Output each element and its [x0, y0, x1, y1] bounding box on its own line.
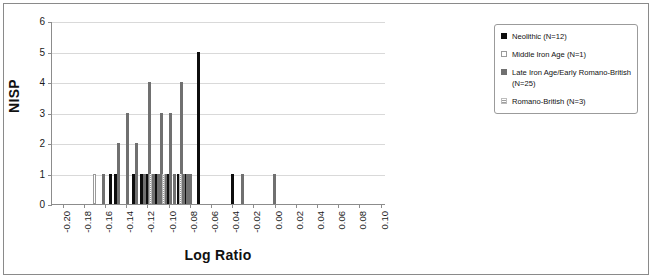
x-tick-label: 0.00 — [274, 211, 284, 230]
legend-item[interactable]: Neolithic (N=12) — [501, 31, 632, 42]
x-tick-label: -0.10 — [168, 211, 178, 233]
bar — [143, 174, 146, 205]
x-tick-label: 0.02 — [295, 211, 305, 230]
y-tick-label: 2 — [39, 139, 45, 149]
x-tick-mark — [232, 204, 233, 208]
y-tick-mark — [48, 144, 52, 145]
x-tick-label: 0.08 — [359, 211, 369, 230]
legend-item[interactable]: Romano-British (N=3) — [501, 96, 632, 107]
x-tick-mark — [381, 204, 382, 208]
x-tick-mark — [359, 204, 360, 208]
legend-item[interactable]: Late Iron Age/Early Romano-British (N=25… — [501, 67, 632, 89]
y-tick-label: 5 — [39, 48, 45, 58]
x-tick-mark — [105, 204, 106, 208]
bar — [117, 143, 120, 204]
x-tick-label: -0.06 — [210, 211, 220, 233]
x-tick-mark — [275, 204, 276, 208]
y-tick-mark — [48, 175, 52, 176]
bar — [241, 174, 244, 205]
x-tick-label: -0.08 — [189, 211, 199, 233]
bar — [182, 174, 185, 205]
legend-item[interactable]: Middle Iron Age (N=1) — [501, 49, 632, 60]
bar — [162, 174, 165, 205]
y-tick-mark — [48, 114, 52, 115]
x-tick-label: -0.20 — [62, 211, 72, 233]
chart-figure: NISP Log Ratio 0123456 -0.20-0.18-0.16-0… — [0, 0, 653, 279]
bar — [189, 174, 192, 205]
y-tick-mark — [48, 83, 52, 84]
x-tick-mark — [84, 204, 85, 208]
x-tick-mark — [211, 204, 212, 208]
y-tick-mark — [48, 53, 52, 54]
bar — [152, 174, 155, 205]
bar — [109, 174, 112, 205]
bar — [173, 174, 176, 205]
gridline — [52, 114, 385, 115]
legend-label: Neolithic (N=12) — [512, 31, 567, 42]
x-tick-label: -0.16 — [104, 211, 114, 233]
legend-swatch-romano — [501, 98, 507, 104]
legend-swatch-neolithic — [501, 33, 507, 39]
x-tick-mark — [126, 204, 127, 208]
y-tick-label: 4 — [39, 78, 45, 88]
x-tick-mark — [253, 204, 254, 208]
y-tick-label: 3 — [39, 109, 45, 119]
y-tick-mark — [48, 22, 52, 23]
bar — [231, 174, 234, 205]
bar — [273, 174, 276, 205]
x-tick-mark — [338, 204, 339, 208]
bar — [135, 143, 138, 204]
plot-area: 0123456 -0.20-0.18-0.16-0.14-0.12-0.10-0… — [51, 22, 385, 205]
x-tick-label: -0.18 — [83, 211, 93, 233]
bar — [197, 52, 200, 205]
x-tick-mark — [147, 204, 148, 208]
x-tick-label: 0.06 — [338, 211, 348, 230]
x-tick-label: 0.10 — [380, 211, 390, 230]
gridline — [52, 22, 385, 23]
bar — [126, 113, 129, 205]
bar — [179, 174, 182, 205]
y-tick-label: 0 — [39, 200, 45, 210]
legend-label: Romano-British (N=3) — [512, 96, 586, 107]
bar — [93, 174, 96, 205]
x-tick-label: -0.04 — [232, 211, 242, 233]
x-tick-label: -0.14 — [125, 211, 135, 233]
x-axis-title: Log Ratio — [51, 247, 385, 263]
y-axis-title: NISP — [6, 79, 22, 113]
x-tick-mark — [190, 204, 191, 208]
legend-label: Middle Iron Age (N=1) — [512, 49, 586, 60]
x-tick-mark — [317, 204, 318, 208]
y-tick-label: 1 — [39, 170, 45, 180]
x-tick-mark — [63, 204, 64, 208]
gridline — [52, 53, 385, 54]
bar — [102, 174, 105, 205]
bar — [149, 174, 152, 205]
x-tick-mark — [296, 204, 297, 208]
x-tick-label: -0.12 — [147, 211, 157, 233]
gridline — [52, 83, 385, 84]
legend-label: Late Iron Age/Early Romano-British (N=25… — [512, 67, 632, 89]
x-tick-label: 0.04 — [316, 211, 326, 230]
legend-swatch-late-iron — [501, 69, 507, 75]
legend-swatch-middle-iron — [501, 51, 507, 57]
x-tick-label: -0.02 — [253, 211, 263, 233]
y-tick-label: 6 — [39, 17, 45, 27]
x-tick-mark — [169, 204, 170, 208]
gridline — [52, 144, 385, 145]
bar — [169, 113, 172, 205]
y-tick-mark — [48, 205, 52, 206]
legend: Neolithic (N=12)Middle Iron Age (N=1)Lat… — [494, 24, 638, 114]
